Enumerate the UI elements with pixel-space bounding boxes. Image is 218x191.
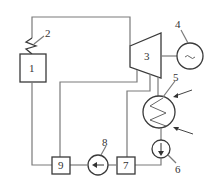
label-2: 2 <box>45 28 51 39</box>
label-4: 4 <box>175 19 181 30</box>
schematic-canvas <box>0 0 218 191</box>
generator-4 <box>177 43 203 69</box>
cooling-in-arrowhead <box>173 93 178 98</box>
extraction-line-9 <box>60 70 137 157</box>
leader-6 <box>168 155 176 163</box>
label-8: 8 <box>102 137 108 148</box>
label-7: 7 <box>123 160 129 171</box>
heater-coil-2 <box>26 38 36 54</box>
leader-2 <box>34 36 44 44</box>
label-6: 6 <box>175 164 181 175</box>
label-5: 5 <box>173 72 179 83</box>
label-9: 9 <box>58 160 64 171</box>
line-6-7 <box>135 158 161 165</box>
label-3: 3 <box>144 51 150 62</box>
label-1: 1 <box>29 63 35 74</box>
feed-line-1-9 <box>32 82 52 165</box>
leader-5 <box>163 81 175 97</box>
leader-4 <box>181 30 188 43</box>
